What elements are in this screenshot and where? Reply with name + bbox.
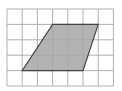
diagram [0,0,122,91]
parallelogram-shape [22,24,98,70]
grid-diagram [0,0,122,91]
